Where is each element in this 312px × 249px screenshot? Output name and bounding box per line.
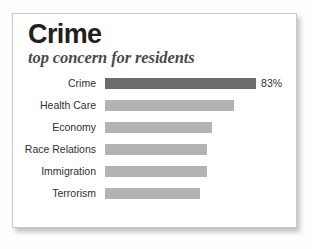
bar: [105, 144, 207, 155]
chart-subtitle: top concern for residents: [28, 48, 278, 67]
chart-title: Crime: [28, 20, 278, 48]
chart-row: Terrorism: [13, 182, 298, 204]
chart-row: Health Care: [13, 94, 298, 116]
chart-row: Crime83%: [13, 72, 298, 94]
category-label: Race Relations: [13, 143, 105, 155]
bar-track: 83%: [105, 72, 298, 94]
screenshot-canvas: Crime top concern for residents Crime83%…: [0, 0, 312, 249]
bar: [105, 166, 207, 177]
chart-row: Economy: [13, 116, 298, 138]
chart-row: Immigration: [13, 160, 298, 182]
bar: [105, 100, 234, 111]
bar-track: [105, 160, 298, 182]
chart-row: Race Relations: [13, 138, 298, 160]
category-label: Crime: [13, 77, 105, 89]
chart-card: Crime top concern for residents Crime83%…: [12, 13, 297, 228]
category-label: Immigration: [13, 165, 105, 177]
category-label: Economy: [13, 121, 105, 133]
bar: [105, 122, 212, 133]
chart-header: Crime top concern for residents: [28, 20, 278, 67]
bar: [105, 78, 256, 89]
bar-chart: Crime83%Health CareEconomyRace Relations…: [13, 72, 298, 222]
bar-track: [105, 182, 298, 204]
category-label: Health Care: [13, 99, 105, 111]
bar-track: [105, 94, 298, 116]
bar-track: [105, 116, 298, 138]
value-label: 83%: [261, 77, 282, 89]
category-label: Terrorism: [13, 187, 105, 199]
bar-track: [105, 138, 298, 160]
bar: [105, 188, 200, 199]
